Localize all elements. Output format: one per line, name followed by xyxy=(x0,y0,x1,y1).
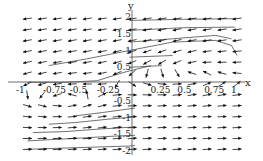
field-arrow xyxy=(233,115,242,118)
field-arrow xyxy=(83,115,92,118)
field-arrow xyxy=(158,137,167,140)
field-arrow xyxy=(173,50,182,53)
y-tick-label: 1.5 xyxy=(117,29,132,39)
field-arrow xyxy=(68,115,77,118)
field-arrow xyxy=(23,105,32,108)
field-arrow xyxy=(188,104,197,107)
field-arrow xyxy=(23,126,32,129)
field-arrow xyxy=(233,61,242,64)
y-tick-labels: 21.510.5-0.5-1-1.5-2 xyxy=(114,12,132,156)
field-arrow xyxy=(188,50,197,53)
field-arrow xyxy=(83,39,92,42)
field-arrow xyxy=(175,69,180,77)
field-arrow xyxy=(188,61,197,64)
field-arrow xyxy=(23,17,32,20)
field-arrow xyxy=(143,148,152,151)
field-arrow xyxy=(38,28,47,31)
field-arrow xyxy=(38,115,47,118)
field-arrow xyxy=(203,126,212,129)
field-arrow xyxy=(98,148,107,151)
field-arrow xyxy=(143,50,152,53)
field-arrow xyxy=(68,137,77,140)
field-arrow xyxy=(188,115,197,118)
x-tick-label: -0.5 xyxy=(70,85,88,95)
field-arrow xyxy=(38,137,47,140)
field-arrow xyxy=(158,115,167,118)
field-arrow xyxy=(203,50,212,53)
field-arrow xyxy=(98,72,107,75)
field-arrow xyxy=(233,104,242,107)
field-arrow xyxy=(38,61,47,64)
x-tick-label: 1 xyxy=(231,85,237,95)
field-arrow xyxy=(98,17,107,20)
field-arrow xyxy=(83,61,92,64)
field-arrow xyxy=(113,39,122,42)
field-arrow xyxy=(158,60,166,65)
field-arrow xyxy=(53,17,62,20)
field-arrow xyxy=(145,69,148,78)
x-axis-label: x xyxy=(245,77,251,88)
field-arrow xyxy=(98,28,107,31)
field-arrow xyxy=(173,104,182,107)
field-arrow xyxy=(83,28,92,31)
field-arrow xyxy=(203,28,212,31)
field-arrow xyxy=(173,17,182,20)
field-arrow xyxy=(98,61,107,64)
field-arrow xyxy=(203,71,211,75)
field-arrow xyxy=(173,148,182,151)
field-arrow xyxy=(98,115,107,118)
field-arrow xyxy=(83,72,92,75)
x-tick-label: -0.25 xyxy=(97,85,120,95)
field-arrow xyxy=(68,104,77,107)
field-arrow xyxy=(23,39,32,42)
y-tick-label: -0.5 xyxy=(114,96,132,106)
field-arrow xyxy=(113,17,122,20)
y-tick-label: -1 xyxy=(122,113,131,123)
field-arrow xyxy=(158,104,167,107)
field-arrow xyxy=(38,105,47,108)
field-arrow xyxy=(233,17,242,20)
field-arrow xyxy=(173,61,181,65)
field-arrow xyxy=(23,115,32,118)
x-tick-label: 0.25 xyxy=(150,85,170,95)
field-arrow xyxy=(203,148,212,151)
field-arrow xyxy=(233,39,242,42)
field-arrow xyxy=(68,17,77,20)
field-arrow xyxy=(188,137,197,140)
y-tick-label: -2 xyxy=(122,146,131,156)
field-arrow xyxy=(203,137,212,140)
field-arrow xyxy=(218,137,227,140)
y-tick-label: -1.5 xyxy=(114,129,132,139)
field-arrow xyxy=(188,28,197,31)
field-arrow xyxy=(233,137,242,140)
x-tick-label: -1 xyxy=(16,85,25,95)
field-arrow xyxy=(218,104,227,107)
field-arrow xyxy=(68,126,77,129)
field-arrow xyxy=(53,50,62,53)
field-arrow xyxy=(173,28,182,31)
field-arrow xyxy=(68,39,77,42)
x-tick-label: -0.75 xyxy=(43,85,66,95)
field-arrow xyxy=(53,72,62,75)
field-arrow xyxy=(161,69,164,78)
field-arrow xyxy=(83,148,92,151)
field-arrow xyxy=(38,17,47,20)
field-arrow xyxy=(188,148,197,151)
field-arrow xyxy=(113,115,122,118)
field-arrow xyxy=(188,39,197,42)
field-arrow xyxy=(83,126,92,129)
field-arrow xyxy=(23,148,32,151)
field-arrow xyxy=(173,137,182,140)
field-arrow xyxy=(38,148,47,151)
field-arrow xyxy=(143,126,152,129)
field-arrow xyxy=(203,115,212,118)
x-tick-labels: -1-0.75-0.5-0.250.250.50.751 xyxy=(16,85,237,95)
streamline xyxy=(130,56,173,58)
field-arrow xyxy=(83,104,92,107)
field-arrow xyxy=(233,28,242,31)
y-tick-label: 1 xyxy=(125,46,131,56)
field-arrow xyxy=(158,148,167,151)
field-arrow xyxy=(188,126,197,129)
field-arrow xyxy=(23,61,32,64)
field-arrow xyxy=(26,90,29,99)
